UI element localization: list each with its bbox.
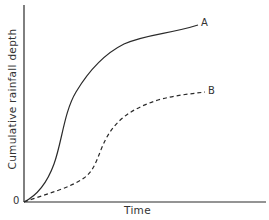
origin-label: 0	[13, 195, 19, 206]
y-axis-label: Cumulative rainfall depth	[6, 24, 20, 174]
chart-canvas	[0, 0, 269, 220]
series-b-label: B	[208, 85, 215, 96]
x-axis-label: Time	[124, 204, 151, 216]
series-a-label: A	[201, 17, 208, 28]
curve-b	[24, 92, 205, 202]
curve-a	[24, 25, 198, 202]
